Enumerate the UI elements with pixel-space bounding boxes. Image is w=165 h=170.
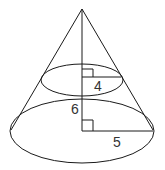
- cone-diagram: 4 6 5: [0, 0, 165, 170]
- height-label: 6: [71, 101, 79, 117]
- base-right-angle-marker: [82, 120, 93, 131]
- base-radius-label: 5: [113, 134, 121, 150]
- upper-right-angle-marker: [82, 69, 93, 77]
- upper-radius-label: 4: [94, 78, 102, 94]
